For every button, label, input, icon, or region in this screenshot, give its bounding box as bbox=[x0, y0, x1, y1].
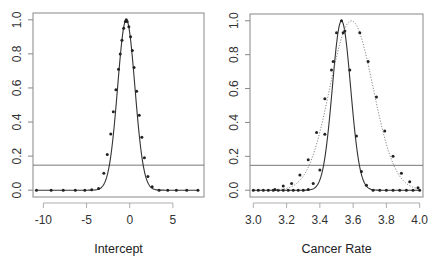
data-point bbox=[348, 68, 351, 71]
data-point bbox=[330, 68, 333, 71]
data-point bbox=[166, 189, 169, 192]
y-axis: 0.00.20.40.60.81.0 bbox=[227, 12, 250, 198]
data-point bbox=[417, 186, 420, 189]
data-point bbox=[312, 182, 315, 185]
y-tick-label: 0.8 bbox=[10, 45, 24, 62]
data-point bbox=[185, 189, 188, 192]
y-tick-label: 0.2 bbox=[227, 148, 241, 165]
data-point bbox=[138, 114, 141, 117]
x-tick-label: 3.8 bbox=[378, 213, 395, 227]
data-point bbox=[292, 189, 295, 192]
data-point bbox=[196, 189, 199, 192]
data-point bbox=[290, 182, 293, 185]
data-point bbox=[392, 189, 395, 192]
data-point bbox=[146, 175, 149, 178]
data-point bbox=[120, 39, 123, 42]
x-axis: -10-505 bbox=[35, 203, 177, 227]
data-point bbox=[412, 189, 415, 192]
data-point bbox=[35, 189, 38, 192]
y-axis: 0.00.20.40.60.81.0 bbox=[10, 11, 33, 198]
data-point bbox=[109, 132, 112, 135]
data-point bbox=[365, 184, 368, 187]
x-axis-title: Intercept bbox=[94, 242, 143, 256]
data-point bbox=[418, 189, 421, 192]
data-point bbox=[122, 27, 125, 30]
data-point bbox=[117, 68, 120, 71]
figure: 0.00.20.40.60.81.0-10-505Intercept 0.00.… bbox=[0, 0, 429, 261]
y-tick-label: 0.0 bbox=[227, 182, 241, 199]
data-point bbox=[298, 173, 301, 176]
data-point bbox=[112, 110, 115, 113]
y-tick-label: 0.0 bbox=[10, 182, 24, 199]
x-axis-title: Cancer Rate bbox=[301, 242, 371, 256]
data-point bbox=[302, 189, 305, 192]
x-axis: 3.03.23.43.63.84.0 bbox=[245, 203, 428, 227]
plot-frame bbox=[33, 13, 204, 197]
data-point bbox=[133, 66, 136, 69]
data-point bbox=[405, 189, 408, 192]
data-point bbox=[143, 156, 146, 159]
data-point bbox=[175, 189, 178, 192]
y-tick-label: 0.4 bbox=[10, 113, 24, 130]
data-point bbox=[129, 35, 132, 38]
curve bbox=[37, 20, 198, 190]
data-point bbox=[323, 97, 326, 100]
data-point bbox=[318, 168, 321, 171]
data-point bbox=[74, 189, 77, 192]
data-point bbox=[315, 131, 318, 134]
data-point bbox=[83, 189, 86, 192]
data-point bbox=[367, 60, 370, 63]
y-tick-label: 0.4 bbox=[227, 114, 241, 131]
data-point bbox=[378, 189, 381, 192]
data-point bbox=[358, 31, 361, 34]
data-point bbox=[140, 136, 143, 139]
data-point bbox=[385, 189, 388, 192]
x-tick-label: -5 bbox=[81, 213, 92, 227]
data-point bbox=[355, 135, 358, 138]
data-point bbox=[342, 31, 345, 34]
data-point bbox=[332, 60, 335, 63]
x-tick-label: -10 bbox=[35, 213, 53, 227]
data-point bbox=[408, 180, 411, 183]
y-tick-label: 0.2 bbox=[10, 147, 24, 164]
data-point bbox=[392, 155, 395, 158]
data-point bbox=[127, 25, 130, 28]
data-point bbox=[97, 187, 100, 190]
y-tick-label: 0.8 bbox=[227, 46, 241, 63]
data-point bbox=[114, 88, 117, 91]
data-point bbox=[102, 172, 105, 175]
series-solid bbox=[35, 18, 200, 191]
data-point bbox=[135, 90, 138, 93]
data-point bbox=[277, 189, 280, 192]
data-point bbox=[62, 189, 65, 192]
data-point bbox=[262, 189, 265, 192]
x-tick-label: 3.0 bbox=[245, 213, 262, 227]
data-point bbox=[119, 52, 122, 55]
data-point bbox=[126, 20, 129, 23]
data-point bbox=[158, 189, 161, 192]
data-point bbox=[282, 184, 285, 187]
x-tick-label: 4.0 bbox=[411, 213, 428, 227]
data-point bbox=[50, 189, 53, 192]
data-point bbox=[307, 188, 310, 191]
data-point bbox=[297, 189, 300, 192]
data-point bbox=[360, 170, 363, 173]
x-tick-label: 3.2 bbox=[278, 213, 295, 227]
data-point bbox=[340, 19, 343, 22]
data-point bbox=[131, 49, 134, 52]
data-point bbox=[252, 189, 255, 192]
data-point bbox=[375, 96, 378, 99]
data-point bbox=[151, 185, 154, 188]
cancer-rate-panel: 0.00.20.40.60.81.03.03.23.43.63.84.0Canc… bbox=[227, 12, 428, 256]
curve bbox=[253, 21, 419, 190]
x-tick-label: 3.6 bbox=[345, 213, 362, 227]
y-tick-label: 0.6 bbox=[227, 80, 241, 97]
data-point bbox=[90, 188, 93, 191]
data-point bbox=[273, 188, 276, 191]
x-tick-label: 3.4 bbox=[312, 213, 329, 227]
intercept-panel: 0.00.20.40.60.81.0-10-505Intercept bbox=[10, 11, 204, 256]
data-point bbox=[267, 189, 270, 192]
data-point bbox=[398, 189, 401, 192]
data-point bbox=[335, 31, 338, 34]
data-point bbox=[307, 158, 310, 161]
